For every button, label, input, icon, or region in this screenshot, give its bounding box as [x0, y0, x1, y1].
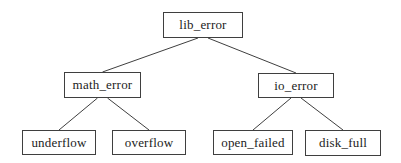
node-disk_full: disk_full [305, 130, 381, 156]
edge-lib_error-io_error [208, 38, 296, 73]
node-label: overflow [125, 135, 174, 151]
edge-math_error-overflow [108, 98, 150, 130]
node-lib_error: lib_error [163, 12, 243, 38]
node-io_error: io_error [258, 73, 334, 98]
edge-math_error-underflow [59, 98, 98, 130]
node-label: lib_error [179, 17, 226, 33]
node-math_error: math_error [64, 72, 141, 98]
node-label: io_error [274, 78, 317, 94]
node-underflow: underflow [22, 130, 96, 155]
edge-lib_error-math_error [103, 38, 199, 72]
node-overflow: overflow [112, 130, 186, 155]
node-label: math_error [73, 77, 133, 93]
edge-io_error-disk_full [301, 98, 343, 130]
tree-diagram: lib_errormath_errorio_errorunderflowover… [0, 0, 401, 163]
node-label: disk_full [319, 135, 367, 151]
node-open_failed: open_failed [213, 130, 293, 155]
node-label: open_failed [221, 135, 285, 151]
node-label: underflow [31, 135, 86, 151]
edge-io_error-open_failed [253, 98, 291, 130]
